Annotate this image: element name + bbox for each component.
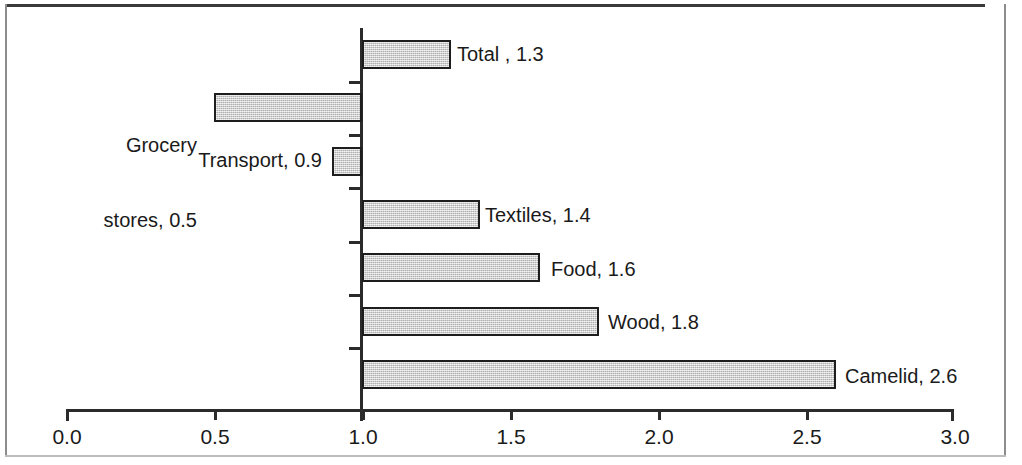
bar-total[interactable]: [362, 40, 451, 69]
bar-label-transport: Transport, 0.9: [0, 148, 322, 173]
bar-textiles[interactable]: [362, 200, 480, 229]
x-tick-1.5: [510, 409, 513, 420]
category-tick-2: [349, 134, 360, 137]
category-tick-5: [349, 294, 360, 297]
category-tick-6: [349, 347, 360, 350]
bar-food[interactable]: [362, 253, 540, 282]
x-tick-label-6: 3.0: [920, 424, 990, 450]
plot-area: Total , 1.3 Grocery stores, 0.5 Transpor…: [0, 0, 1022, 465]
x-tick-2.5: [806, 409, 809, 420]
chart-figure: Total , 1.3 Grocery stores, 0.5 Transpor…: [0, 0, 1022, 465]
category-tick-3: [349, 187, 360, 190]
x-tick-label-4: 2.0: [624, 424, 694, 450]
bar-label-grocery-stores: Grocery stores, 0.5: [0, 83, 197, 283]
bar-grocery-stores[interactable]: [214, 93, 362, 122]
bar-label-total: Total , 1.3: [457, 42, 544, 67]
bar-wood[interactable]: [362, 307, 599, 336]
bar-camelid[interactable]: [362, 360, 836, 389]
bar-label-wood: Wood, 1.8: [608, 310, 699, 335]
x-axis-cap-left: [66, 409, 69, 421]
bar-label-grocery-stores-line2: stores, 0.5: [0, 208, 197, 233]
bar-label-camelid: Camelid, 2.6: [845, 364, 957, 389]
x-tick-label-5: 2.5: [772, 424, 842, 450]
category-tick-1: [349, 81, 360, 84]
category-tick-4: [349, 241, 360, 244]
x-tick-label-0: 0.0: [32, 424, 102, 450]
x-axis-cap-right: [951, 409, 954, 421]
bar-transport[interactable]: [332, 147, 362, 176]
bar-label-food: Food, 1.6: [551, 257, 636, 282]
x-tick-label-1: 0.5: [180, 424, 250, 450]
x-tick-label-3: 1.5: [476, 424, 546, 450]
x-tick-2.0: [658, 409, 661, 420]
x-tick-0.5: [214, 409, 217, 420]
bar-label-textiles: Textiles, 1.4: [485, 203, 591, 228]
x-tick-label-2: 1.0: [328, 424, 398, 450]
x-tick-1.0: [362, 409, 365, 420]
